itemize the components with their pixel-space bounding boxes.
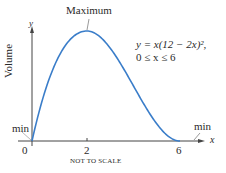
x-tick-label-0: 0 (22, 144, 28, 156)
min-right-label: min (194, 120, 211, 132)
x-axis-symbol: x (210, 134, 214, 145)
equation-line-1: y = x(12 − 2x)², (136, 38, 206, 51)
not-to-scale-note: NOT TO SCALE (70, 157, 121, 165)
x-tick-label-2: 2 (84, 144, 90, 156)
min-left-label: min (12, 122, 29, 134)
x-tick-label-6: 6 (176, 144, 182, 156)
y-axis-symbol: y (29, 18, 33, 28)
x-axis-arrow-icon (198, 139, 205, 143)
maximum-leader-line (87, 19, 89, 30)
min-right-leader-line (194, 133, 200, 140)
equation-label: y = x(12 − 2x)², 0 ≤ x ≤ 6 (136, 38, 206, 64)
equation-line-2: 0 ≤ x ≤ 6 (136, 51, 206, 64)
y-axis-title: Volume (2, 44, 14, 78)
maximum-label: Maximum (66, 4, 112, 16)
chart-canvas (0, 0, 226, 173)
